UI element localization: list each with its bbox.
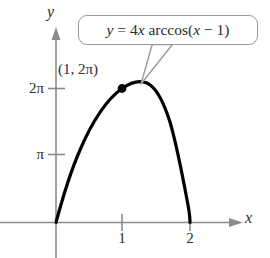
y-tick-label-pi: π xyxy=(8,147,44,162)
y-tick-label-2pi: 2π xyxy=(8,81,44,96)
y-axis-label: y xyxy=(47,4,54,20)
equation-function-open: arccos( xyxy=(148,21,193,38)
point-coordinate-label: (1, 2π) xyxy=(58,62,98,77)
equation-text: y = 4x arccos(x − 1) xyxy=(107,22,230,38)
y-axis-arrowhead xyxy=(52,27,61,40)
callout-tail xyxy=(141,45,172,84)
x-axis-label: x xyxy=(245,210,252,226)
x-axis-arrowhead xyxy=(229,218,243,227)
equation-callout: y = 4x arccos(x − 1) xyxy=(78,15,258,45)
equation-coefficient: 4 xyxy=(130,21,138,38)
x-tick-label-2: 2 xyxy=(176,231,204,246)
x-tick-label-1: 1 xyxy=(108,231,136,246)
equation-minus-sign: − xyxy=(204,21,213,38)
equation-var-1: x xyxy=(138,21,145,38)
function-curve xyxy=(56,82,190,223)
equation-function-close: ) xyxy=(224,21,229,38)
equation-var-2: x xyxy=(193,21,200,38)
equation-equals-sign: = xyxy=(117,21,126,38)
marked-point-dot xyxy=(118,84,127,93)
graph-figure: y x 2π π 1 2 (1, 2π) y = 4x arccos(x − 1… xyxy=(0,0,270,258)
